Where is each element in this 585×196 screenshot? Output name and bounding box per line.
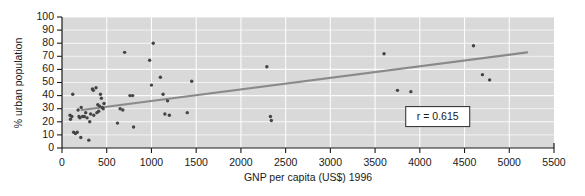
data-point	[121, 108, 124, 111]
correlation-value: r = 0.615	[417, 110, 459, 122]
tick-label-y: 80	[42, 36, 54, 48]
data-point	[166, 99, 169, 102]
data-point	[79, 136, 82, 139]
data-point	[80, 106, 83, 109]
tick-label-x: 3500	[363, 156, 387, 168]
data-point	[150, 83, 153, 86]
data-point	[116, 121, 119, 124]
tick-label-y: 60	[42, 62, 54, 74]
tick-label-x: 4000	[408, 156, 432, 168]
data-point	[382, 52, 385, 55]
data-point	[89, 112, 92, 115]
tick-label-x: 500	[98, 156, 116, 168]
data-point	[87, 138, 90, 141]
x-axis-title: GNP per capita (US$) 1996	[244, 171, 372, 183]
data-point	[102, 102, 105, 105]
data-point	[123, 51, 126, 54]
tick-label-x: 1000	[140, 156, 164, 168]
tick-label-y: 100	[36, 10, 54, 22]
correlation-annotation: r = 0.615	[406, 107, 470, 127]
data-point	[76, 131, 79, 134]
data-point	[70, 115, 73, 118]
data-point	[190, 79, 193, 82]
data-point	[71, 93, 74, 96]
tick-label-x: 5000	[498, 156, 522, 168]
tick-label-y: 20	[42, 115, 54, 127]
data-point	[101, 107, 104, 110]
tick-label-y: 10	[42, 128, 54, 140]
data-point	[100, 97, 103, 100]
tick-label-x: 2500	[274, 156, 298, 168]
tick-label-y: 30	[42, 101, 54, 113]
tick-label-x: 0	[59, 156, 65, 168]
data-point	[85, 116, 88, 119]
data-point	[161, 93, 164, 96]
data-point	[163, 112, 166, 115]
data-point	[132, 125, 135, 128]
tick-label-x: 5500	[542, 156, 566, 168]
data-point	[131, 94, 134, 97]
data-point	[159, 76, 162, 79]
tick-label-x: 3000	[319, 156, 343, 168]
data-point	[92, 114, 95, 117]
data-point	[488, 78, 491, 81]
data-point	[472, 44, 475, 47]
y-axis-title: % urban population	[12, 38, 24, 129]
tick-label-x: 1500	[185, 156, 209, 168]
data-point	[99, 93, 102, 96]
data-point	[88, 120, 91, 123]
data-point	[481, 73, 484, 76]
data-point	[186, 111, 189, 114]
data-point	[76, 108, 79, 111]
chart-canvas: 0102030405060708090100 05001000150020002…	[0, 0, 585, 196]
tick-label-y: 40	[42, 88, 54, 100]
data-point	[94, 86, 97, 89]
tick-label-y: 70	[42, 49, 54, 61]
tick-label-y: 0	[48, 141, 54, 153]
data-point	[84, 111, 87, 114]
scatter-plot-figure: 0102030405060708090100 05001000150020002…	[0, 0, 585, 196]
tick-label-y: 50	[42, 75, 54, 87]
tick-label-x: 4500	[453, 156, 477, 168]
data-point	[148, 59, 151, 62]
data-point	[97, 110, 100, 113]
data-point	[409, 90, 412, 93]
data-point	[270, 119, 273, 122]
data-point	[269, 115, 272, 118]
data-point	[396, 89, 399, 92]
data-point	[168, 114, 171, 117]
tick-label-x: 2000	[229, 156, 253, 168]
data-point	[265, 65, 268, 68]
data-point	[92, 89, 95, 92]
data-point	[152, 42, 155, 45]
tick-label-y: 90	[42, 23, 54, 35]
